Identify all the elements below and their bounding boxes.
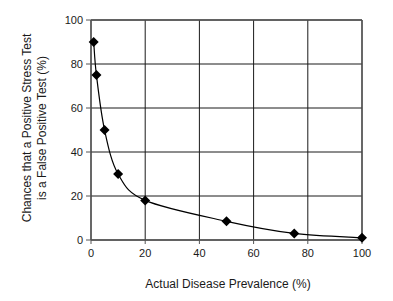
grid-lines [91, 20, 362, 240]
y-tick-label: 20 [71, 190, 83, 202]
x-tick-label: 40 [193, 247, 205, 259]
y-tick-label: 100 [65, 14, 83, 26]
y-tick-label: 60 [71, 102, 83, 114]
chart: 020406080100 020406080100 Chances that a… [0, 0, 393, 301]
x-tick-label: 20 [139, 247, 151, 259]
y-tick-label: 40 [71, 146, 83, 158]
diamond-marker [89, 37, 99, 47]
diamond-marker [91, 70, 101, 80]
diamond-marker [222, 216, 232, 226]
x-tick-label: 60 [247, 247, 259, 259]
y-axis-ticks: 020406080100 [65, 14, 91, 246]
y-axis-title-line-1: Chances that a Positive Stress Test [20, 33, 34, 222]
diamond-marker [140, 195, 150, 205]
diamond-marker [289, 228, 299, 238]
data-line [94, 42, 362, 238]
y-axis-title-line-2: is a False Positive Test (%) [35, 56, 49, 200]
y-tick-label: 0 [77, 234, 83, 246]
x-tick-label: 80 [302, 247, 314, 259]
diamond-marker [113, 169, 123, 179]
diamond-marker [357, 233, 367, 243]
y-tick-label: 80 [71, 58, 83, 70]
x-tick-label: 0 [88, 247, 94, 259]
x-axis-title: Actual Disease Prevalence (%) [145, 277, 310, 291]
diamond-marker [100, 125, 110, 135]
data-markers [89, 37, 367, 243]
axes [91, 20, 362, 240]
x-axis-ticks: 020406080100 [88, 240, 371, 259]
line-chart: 020406080100 020406080100 Chances that a… [0, 0, 393, 301]
x-tick-label: 100 [353, 247, 371, 259]
